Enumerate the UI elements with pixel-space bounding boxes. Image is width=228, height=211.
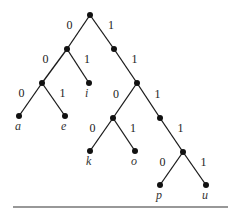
edge-bit-label: 1 (130, 121, 136, 135)
edge-bit-label: 0 (67, 18, 73, 32)
leaf-label-k: k (86, 154, 92, 168)
internal-node (64, 46, 70, 52)
edge-bit-label: 0 (90, 121, 96, 135)
edge-bit-label: 0 (19, 86, 25, 100)
internal-node (180, 149, 186, 155)
edge-bit-label: 1 (178, 121, 184, 135)
leaf-label-i: i (85, 86, 88, 100)
edge-bit-label: 1 (108, 18, 114, 32)
edge-bit-label: 1 (84, 52, 90, 66)
leaf-label-u: u (202, 188, 208, 202)
leaf-label-e: e (61, 119, 67, 133)
leaf-label-p: p (155, 188, 162, 202)
edge-bit-label: 0 (43, 52, 49, 66)
internal-node (110, 115, 116, 121)
edge-bit-label: 1 (201, 155, 207, 169)
edge-bit-label: 0 (113, 87, 119, 101)
edge-bit-label: 0 (160, 155, 166, 169)
leaf-label-a: a (15, 119, 21, 133)
leaf-label-o: o (131, 154, 137, 168)
edge-bit-label: 1 (132, 52, 138, 66)
internal-node (87, 12, 93, 18)
internal-node (157, 115, 163, 121)
internal-node (134, 80, 140, 86)
edge-bit-label: 1 (155, 87, 161, 101)
edge-bit-label: 1 (60, 86, 66, 100)
prefix-code-tree-diagram: 01011010101101 iaekopu (0, 0, 228, 211)
leaf-labels: iaekopu (15, 86, 208, 202)
internal-node (39, 80, 45, 86)
internal-node (111, 46, 117, 52)
